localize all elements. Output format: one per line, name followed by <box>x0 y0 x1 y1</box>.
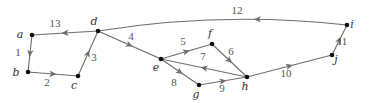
node-label-h: h <box>241 80 248 93</box>
node-label-a: a <box>17 28 24 41</box>
node-label-c: c <box>71 79 77 92</box>
edge-weight-e-f: 5 <box>180 35 186 47</box>
edge-weight-f-h: 6 <box>228 45 234 57</box>
directed-graph: 12345678910111213 abcdefghij <box>0 0 372 103</box>
edge-weight-c-d: 3 <box>91 51 97 63</box>
edge-weight-g-h: 9 <box>219 82 225 94</box>
node-g <box>197 83 202 88</box>
edge-labels-layer: 12345678910111213 <box>15 4 347 94</box>
edge-weight-a-b: 1 <box>15 46 21 58</box>
edge-weight-b-c: 2 <box>44 76 50 88</box>
edge-weight-e-g: 8 <box>171 76 177 88</box>
edge-weight-j-i: 11 <box>337 35 348 47</box>
node-b <box>26 70 31 75</box>
edge-weight-d-e: 4 <box>128 30 134 42</box>
node-d <box>96 29 101 34</box>
node-f <box>210 42 215 47</box>
arrow-e-g-icon <box>175 67 183 74</box>
edge-weight-h-j: 10 <box>281 67 293 79</box>
node-a <box>30 33 35 38</box>
node-e <box>159 57 164 62</box>
node-c <box>76 74 81 79</box>
edge-weight-d-a: 13 <box>50 17 62 29</box>
edge-weight-i-d: 12 <box>232 4 243 16</box>
node-i <box>345 23 350 28</box>
node-label-f: f <box>207 27 214 40</box>
node-label-g: g <box>192 88 199 101</box>
node-labels-layer: abcdefghij <box>12 15 353 101</box>
node-label-i: i <box>350 18 354 31</box>
node-label-b: b <box>12 66 19 79</box>
edge-weight-h-e: 7 <box>200 50 206 62</box>
edge-i-d <box>98 19 347 31</box>
node-label-d: d <box>90 15 97 28</box>
node-label-e: e <box>153 61 160 74</box>
node-h <box>245 75 250 80</box>
